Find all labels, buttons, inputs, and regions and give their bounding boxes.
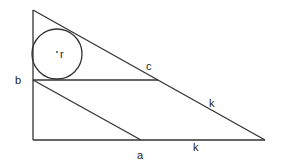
label-k-hypotenuse: k [209,97,215,109]
geometry-diagram: r b c k k a [0,0,282,166]
label-r: r [60,48,64,60]
label-a: a [137,149,144,161]
hypotenuse [33,10,265,140]
inscribed-circle [32,29,82,79]
inner-diagonal [33,80,141,140]
label-b: b [15,74,21,86]
label-c: c [146,60,152,72]
circle-center-dot [56,51,58,53]
label-k-base: k [193,141,199,153]
